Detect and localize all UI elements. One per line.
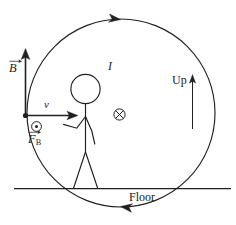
- stick-figure-left-leg: [74, 152, 86, 188]
- stick-figure-left-arm: [64, 117, 86, 129]
- up-reference-arrow: [189, 75, 195, 130]
- stick-figure-right-leg: [86, 152, 98, 188]
- stick-figure-head: [71, 74, 100, 103]
- stick-figure-right-arm: [86, 117, 95, 145]
- into-page-symbol-icon: [114, 109, 125, 120]
- stick-figure-person: [64, 74, 101, 188]
- up-direction-label: Up: [172, 74, 187, 86]
- figure-canvas: [0, 0, 236, 225]
- loop-bottom-arrowhead: [121, 204, 133, 212]
- vector-origin-dot: [23, 113, 28, 118]
- current-label: I: [108, 60, 112, 72]
- b-field-label: B: [9, 62, 17, 75]
- magnetic-force-label: F B: [28, 133, 41, 147]
- loop-top-arrowhead: [109, 14, 121, 22]
- velocity-label: v: [44, 99, 49, 110]
- velocity-arrow: [26, 111, 79, 120]
- b-field-arrow: [21, 49, 30, 116]
- physics-figure: B v F B I Up Floor: [0, 0, 236, 225]
- out-of-page-symbol-icon: [32, 122, 42, 132]
- floor-label: Floor: [129, 191, 155, 203]
- magnetic-force-subscript: B: [36, 138, 42, 147]
